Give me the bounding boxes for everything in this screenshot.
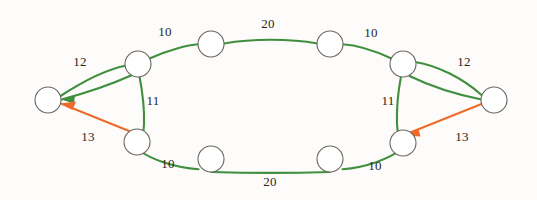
edge-top-right-to-right-lower[interactable] (410, 76, 482, 100)
bottom-right-hub-node[interactable] (390, 130, 416, 156)
green-edge-group (61, 40, 483, 173)
label-bottom-20: 20 (263, 174, 276, 190)
top-right-hub-node[interactable] (390, 51, 416, 77)
label-right-11: 11 (382, 93, 395, 109)
label-top-20: 20 (261, 16, 274, 32)
top-node-1[interactable] (198, 31, 224, 57)
top-node-2[interactable] (317, 31, 343, 57)
orange-edge-group (61, 102, 482, 137)
bottom-node-1[interactable] (198, 146, 224, 172)
label-bottom-left-10: 10 (161, 156, 174, 172)
edge-bottom-left-to-left-arrow[interactable] (62, 104, 139, 135)
label-top-left-10: 10 (158, 24, 171, 40)
node-group (35, 31, 507, 172)
top-left-hub-node[interactable] (125, 51, 151, 77)
edge-top-node-1-to-top-node-2[interactable] (224, 40, 318, 44)
edge-top-left-to-top-node-1[interactable] (150, 44, 199, 58)
label-right-13: 13 (455, 129, 468, 145)
label-right-12: 12 (457, 54, 470, 70)
label-top-right-10: 10 (364, 25, 377, 41)
left-terminal-node[interactable] (35, 87, 61, 113)
bottom-node-2[interactable] (317, 146, 343, 172)
edge-top-node-2-to-top-right[interactable] (343, 44, 392, 58)
right-terminal-node[interactable] (481, 87, 507, 113)
edge-top-left-to-left[interactable] (62, 76, 132, 100)
edge-bottom-node-1-to-bottom-node-2[interactable] (211, 172, 330, 173)
label-bottom-right-10: 10 (368, 158, 381, 174)
bottom-left-hub-node[interactable] (124, 129, 150, 155)
label-left-13: 13 (81, 129, 94, 145)
network-diagram-canvas: 10 20 10 12 12 11 11 13 13 10 20 10 (0, 0, 537, 200)
label-left-11: 11 (147, 93, 160, 109)
label-left-12: 12 (73, 54, 86, 70)
